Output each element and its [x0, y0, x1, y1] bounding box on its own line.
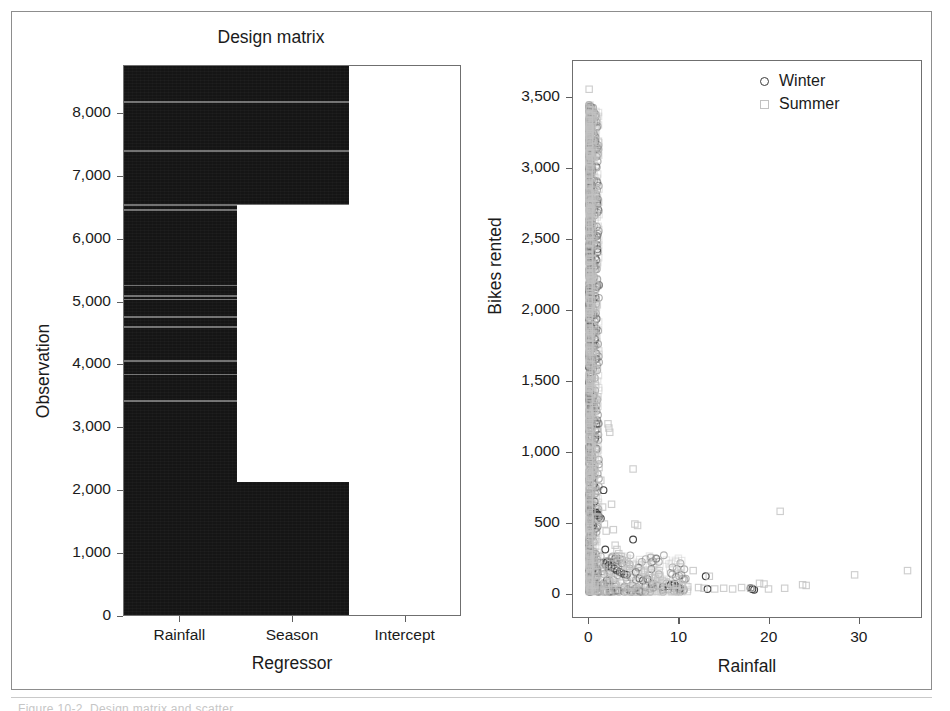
design-matrix-x-tick-label: Intercept: [345, 626, 465, 644]
panel-design-matrix: Design matrix 01,0002,0003,0004,0005,000…: [11, 11, 471, 690]
design-matrix-stripe: [124, 295, 237, 297]
legend-label: Summer: [779, 92, 839, 115]
design-matrix-ylabel: Observation: [33, 171, 54, 571]
scatter-y-tick-label: 500: [476, 513, 560, 531]
design-matrix-y-tick-mark: [117, 113, 123, 114]
design-matrix-x-tick-mark: [179, 616, 180, 622]
scatter-plot-area: [572, 60, 922, 618]
scatter-x-tick-label: 0: [548, 628, 628, 646]
circle-marker-icon: [756, 69, 772, 92]
design-matrix-y-tick-mark: [117, 490, 123, 491]
design-matrix-column-season: [237, 66, 350, 205]
design-matrix-y-tick-mark: [117, 553, 123, 554]
scatter-series-winter: [586, 120, 758, 595]
scatter-y-tick-mark: [566, 381, 572, 382]
design-matrix-y-tick-mark: [117, 427, 123, 428]
scatter-x-tick-mark: [859, 618, 860, 624]
panel-scatter: 05001,0001,5002,0002,5003,0003,500 01020…: [471, 11, 932, 690]
scatter-ylabel: Bikes rented: [485, 66, 506, 466]
scatter-canvas: [573, 61, 921, 616]
legend-item-winter[interactable]: Winter: [756, 69, 839, 92]
design-matrix-stripe: [124, 299, 237, 301]
square-marker-icon: [756, 92, 772, 115]
design-matrix-y-tick-label: 8,000: [23, 103, 111, 121]
design-matrix-stripe: [124, 204, 349, 206]
scatter-y-tick-mark: [566, 97, 572, 98]
scatter-x-tick-mark: [769, 618, 770, 624]
scatter-y-tick-mark: [566, 452, 572, 453]
scatter-y-tick-mark: [566, 523, 572, 524]
figure-root: Design matrix 01,0002,0003,0004,0005,000…: [0, 0, 950, 711]
legend-label: Winter: [779, 69, 825, 92]
scatter-y-tick-mark: [566, 168, 572, 169]
scatter-x-tick-mark: [588, 618, 589, 624]
scatter-y-tick-mark: [566, 239, 572, 240]
design-matrix-y-tick-mark: [117, 364, 123, 365]
legend-item-summer[interactable]: Summer: [756, 92, 839, 115]
scatter-x-tick-label: 30: [819, 628, 899, 646]
design-matrix-plot-area: [123, 65, 461, 616]
design-matrix-stripe: [124, 285, 237, 287]
design-matrix-stripe: [124, 150, 349, 152]
design-matrix-stripe: [124, 360, 237, 362]
legend-swatch-shape: [760, 100, 769, 109]
design-matrix-stripe: [124, 400, 237, 402]
panel-title-design-matrix: Design matrix: [141, 27, 401, 48]
design-matrix-column-rainfall: [124, 66, 237, 616]
scatter-legend: WinterSummer: [756, 69, 839, 115]
design-matrix-y-tick-label: 0: [23, 606, 111, 624]
scatter-y-tick-label: 0: [476, 584, 560, 602]
scatter-x-tick-mark: [678, 618, 679, 624]
design-matrix-column-season: [237, 482, 350, 616]
design-matrix-y-tick-mark: [117, 616, 123, 617]
design-matrix-y-tick-mark: [117, 239, 123, 240]
design-matrix-x-tick-label: Rainfall: [119, 626, 239, 644]
figure-caption: Figure 10-2. Design matrix and scatter: [18, 702, 518, 711]
scatter-x-tick-label: 10: [638, 628, 718, 646]
scatter-y-tick-mark: [566, 310, 572, 311]
legend-swatch-shape: [760, 77, 769, 86]
scatter-series-summer: [586, 86, 911, 592]
page-rule: [11, 697, 932, 698]
design-matrix-xlabel: Regressor: [123, 653, 461, 674]
design-matrix-stripe: [124, 209, 237, 211]
design-matrix-stripe: [124, 374, 237, 376]
scatter-x-tick-label: 20: [729, 628, 809, 646]
scatter-xlabel: Rainfall: [572, 656, 922, 677]
design-matrix-image: [124, 66, 460, 615]
design-matrix-y-tick-mark: [117, 302, 123, 303]
design-matrix-stripe: [124, 326, 237, 328]
design-matrix-stripe: [124, 316, 237, 318]
design-matrix-x-tick-label: Season: [232, 626, 352, 644]
design-matrix-y-tick-mark: [117, 176, 123, 177]
design-matrix-stripe: [124, 101, 349, 103]
scatter-y-tick-mark: [566, 594, 572, 595]
design-matrix-x-tick-mark: [405, 616, 406, 622]
design-matrix-x-tick-mark: [292, 616, 293, 622]
